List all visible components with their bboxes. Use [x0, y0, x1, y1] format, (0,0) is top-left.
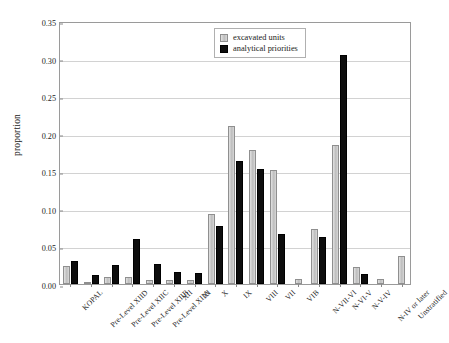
- x-axis-tick-mark: [91, 284, 92, 287]
- bar: [154, 264, 161, 284]
- bar: [92, 275, 99, 284]
- x-axis-tick-label: X: [220, 288, 230, 298]
- y-axis-tick-label: 0.10: [42, 206, 60, 215]
- bar-group: [267, 23, 288, 284]
- bar-group: [226, 23, 247, 284]
- x-axis-tick-mark: [381, 284, 382, 287]
- x-axis-tick-mark: [70, 284, 71, 287]
- x-axis-tick-label: VII: [284, 288, 298, 302]
- x-axis-tick-mark: [112, 284, 113, 287]
- legend-swatch-excavated-units: [220, 34, 228, 42]
- bar-group: [60, 23, 81, 284]
- bar-group: [143, 23, 164, 284]
- legend-label-analytical-priorities: analytical priorities: [233, 43, 298, 54]
- bar: [398, 256, 405, 284]
- x-axis-tick-mark: [215, 284, 216, 287]
- x-axis-tick-mark: [402, 284, 403, 287]
- y-axis-tick-label: 0.20: [42, 131, 60, 140]
- bar-group: [308, 23, 329, 284]
- x-axis-tick-mark: [174, 284, 175, 287]
- bar: [166, 280, 173, 285]
- bar: [208, 214, 215, 284]
- x-axis-tick-label: KOPAL: [81, 288, 105, 312]
- bar: [146, 280, 153, 285]
- x-axis-tick-mark: [319, 284, 320, 287]
- x-axis-tick-mark: [153, 284, 154, 287]
- plot-area: 0.350.300.250.200.150.100.050.00: [59, 22, 411, 285]
- bar-group: [371, 23, 392, 284]
- bar-group: [350, 23, 371, 284]
- bar: [361, 274, 368, 284]
- bar-group: [288, 23, 309, 284]
- x-axis-labels: KOPALPre-Level XIIDPre-Level XIICPre-Lev…: [59, 288, 411, 343]
- x-axis-tick-label: N-V-IV: [370, 288, 393, 311]
- y-axis-title: proportion: [12, 90, 22, 180]
- bar: [125, 277, 132, 285]
- legend-item-analytical-priorities: analytical priorities: [220, 43, 298, 54]
- bar-series-container: [60, 23, 410, 284]
- bar: [71, 261, 78, 284]
- bar: [236, 161, 243, 284]
- x-axis-tick-mark: [298, 284, 299, 287]
- y-axis-tick-label: 0.25: [42, 94, 60, 103]
- bar-group: [101, 23, 122, 284]
- x-axis-tick-mark: [340, 284, 341, 287]
- bar-group: [205, 23, 226, 284]
- bar: [353, 267, 360, 284]
- legend-item-excavated-units: excavated units: [220, 32, 298, 43]
- x-axis-tick-label: IX: [241, 288, 253, 300]
- bar-group: [164, 23, 185, 284]
- x-axis-tick-mark: [257, 284, 258, 287]
- bar: [311, 229, 318, 284]
- y-axis-tick-label: 0.35: [42, 19, 60, 28]
- x-axis-tick-mark: [132, 284, 133, 287]
- bar: [216, 226, 223, 284]
- x-axis-tick-mark: [360, 284, 361, 287]
- bar-group: [184, 23, 205, 284]
- bar: [112, 265, 119, 284]
- bar-group: [246, 23, 267, 284]
- bar-group: [391, 23, 412, 284]
- x-axis-tick-mark: [236, 284, 237, 287]
- y-axis-tick-label: 0.30: [42, 56, 60, 65]
- legend-label-excavated-units: excavated units: [233, 32, 285, 43]
- bar: [278, 234, 285, 284]
- bar-group: [81, 23, 102, 284]
- chart-legend: excavated units analytical priorities: [214, 28, 306, 58]
- bar: [332, 145, 339, 284]
- bar: [187, 280, 194, 284]
- y-axis-tick-label: 0.00: [42, 282, 60, 291]
- bar: [104, 277, 111, 285]
- bar: [195, 273, 202, 284]
- x-axis-tick-label: VIB: [305, 288, 321, 304]
- x-axis-tick-label: VIII: [264, 288, 280, 304]
- bar-group: [329, 23, 350, 284]
- bar: [257, 169, 264, 284]
- bar: [84, 282, 91, 284]
- bar: [249, 150, 256, 284]
- bar-group: [122, 23, 143, 284]
- x-axis-tick-mark: [195, 284, 196, 287]
- bar: [228, 126, 235, 284]
- y-axis-tick-label: 0.15: [42, 169, 60, 178]
- bar: [133, 239, 140, 284]
- y-axis-tick-label: 0.05: [42, 244, 60, 253]
- legend-swatch-analytical-priorities: [220, 45, 228, 53]
- bar: [270, 170, 277, 284]
- bar: [340, 55, 347, 284]
- bar: [319, 237, 326, 284]
- x-axis-tick-mark: [277, 284, 278, 287]
- bar: [63, 266, 70, 284]
- bar: [174, 272, 181, 284]
